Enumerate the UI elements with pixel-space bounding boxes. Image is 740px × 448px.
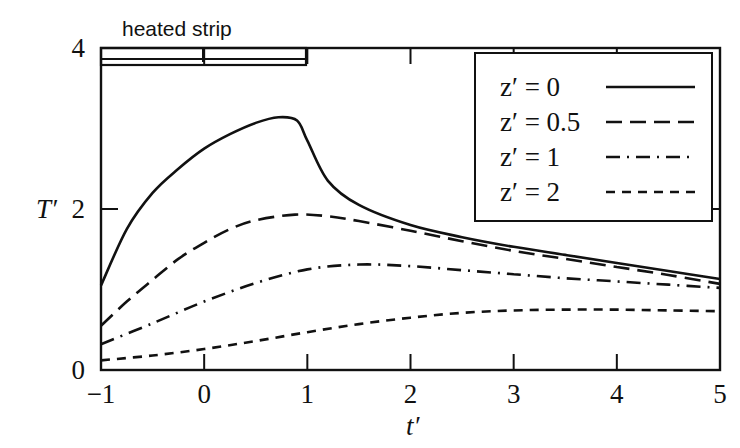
x-tick-label: 4 <box>610 379 624 409</box>
x-tick-label: −1 <box>87 379 116 409</box>
heated-strip-label: heated strip <box>122 17 232 40</box>
series-line-3 <box>101 310 720 361</box>
legend-label: z′ = 0 <box>500 72 560 102</box>
x-axis-label: t′ <box>406 411 421 441</box>
legend: z′ = 0z′ = 0.5z′ = 1z′ = 2 <box>475 53 712 221</box>
legend-label: z′ = 2 <box>500 177 560 207</box>
y-tick-label: 2 <box>72 194 86 224</box>
series-line-2 <box>101 264 720 344</box>
y-tick-label: 4 <box>72 33 86 63</box>
legend-label: z′ = 1 <box>500 142 560 172</box>
x-tick-label: 3 <box>507 379 521 409</box>
x-tick-label: 2 <box>404 379 418 409</box>
x-tick-label: 1 <box>301 379 315 409</box>
legend-label: z′ = 0.5 <box>500 107 580 137</box>
x-tick-label: 5 <box>713 379 727 409</box>
y-tick-label: 0 <box>72 355 86 385</box>
y-axis-label: T′ <box>36 194 58 224</box>
chart: heated strip −1012345024 T′ t′ z′ = 0z′ … <box>0 0 740 448</box>
x-tick-label: 0 <box>197 379 211 409</box>
